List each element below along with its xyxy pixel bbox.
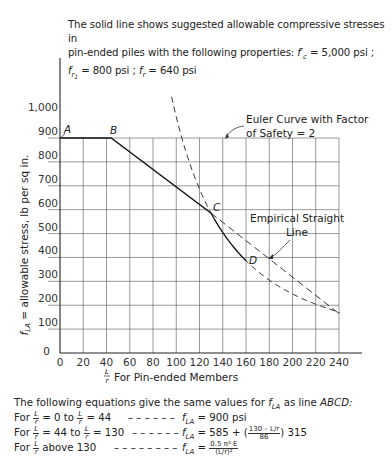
- annotations: Euler Curve with Factor of Safety = 2 Em…: [18, 113, 369, 385]
- euler-label-line2: of Safety = 2: [246, 127, 315, 139]
- euler-label-line1: Euler Curve with Factor: [246, 113, 369, 125]
- point-label-a: A: [63, 123, 71, 135]
- equation-row-2: For Lr = 44 to Lr = 130 – – – – – – fLA …: [14, 425, 389, 440]
- y-tick-label: 500: [38, 221, 58, 233]
- equations-intro: The following equations give the same va…: [14, 395, 389, 410]
- y-tick-label: 800: [38, 149, 58, 161]
- equation-row-1: For Lr = 0 to Lr = 44 – – – – – – fLA = …: [14, 410, 389, 425]
- x-tick-label: 180: [259, 356, 279, 368]
- point-label-c: C: [213, 201, 221, 213]
- empirical-label-line2: Line: [286, 226, 308, 238]
- x-axis-ticks: 020406080100120140160180200220240: [57, 356, 349, 368]
- y-tick-label: 700: [38, 173, 58, 185]
- y-axis-ticks: 01002003004005006007008009001,000: [28, 101, 58, 357]
- point-label-d: D: [249, 254, 257, 266]
- x-tick-label: 120: [189, 356, 209, 368]
- x-tick-label: 100: [166, 356, 186, 368]
- x-tick-label: 0: [57, 356, 64, 368]
- point-label-b: B: [110, 124, 117, 136]
- svg-text:For Pin-ended Members: For Pin-ended Members: [114, 371, 238, 383]
- empirical-label-line1: Empirical Straight: [250, 212, 344, 224]
- point-a-leader: [61, 133, 65, 138]
- x-axis-title: L r For Pin-ended Members: [104, 368, 238, 385]
- x-tick-label: 200: [282, 356, 302, 368]
- x-tick-label: 220: [306, 356, 326, 368]
- x-tick-label: 240: [329, 356, 349, 368]
- fla-symbol: fLA: [268, 397, 280, 408]
- x-tick-label: 60: [123, 356, 136, 368]
- l-over-r: Lr: [77, 411, 83, 426]
- l-over-r: Lr: [33, 441, 39, 456]
- x-tick-label: 160: [236, 356, 256, 368]
- y-tick-label: 900: [38, 125, 58, 137]
- euler-leader-arrow: [226, 126, 244, 137]
- x-tick-label: 140: [213, 356, 233, 368]
- x-tick-label: 20: [77, 356, 90, 368]
- x-tick-label: 80: [146, 356, 159, 368]
- y-tick-label: 200: [38, 292, 58, 304]
- y-tick-label: 1,000: [28, 101, 58, 113]
- equations-block: The following equations give the same va…: [14, 395, 389, 455]
- series-empirical-line: [211, 213, 339, 313]
- equation-row-3: For Lr above 130 – – – – – – – – fLA = 0…: [14, 440, 389, 455]
- x-tick-label: 40: [100, 356, 113, 368]
- grid-lines: [48, 138, 339, 353]
- l-over-r: Lr: [33, 426, 39, 441]
- y-tick-label: 300: [38, 268, 58, 280]
- l-over-r: Lr: [84, 426, 90, 441]
- y-tick-label: 400: [38, 244, 58, 256]
- y-tick-label: 100: [38, 316, 58, 328]
- y-tick-label: 600: [38, 197, 58, 209]
- svg-text:L: L: [105, 368, 109, 376]
- y-tick-label: 0: [43, 345, 50, 357]
- y-axis-title: fLA = allowable stress, lb per sq in.: [18, 155, 32, 336]
- svg-text:r: r: [106, 377, 110, 385]
- axes: [60, 58, 362, 353]
- empirical-arrowhead-icon: [268, 254, 273, 259]
- l-over-r: Lr: [33, 411, 39, 426]
